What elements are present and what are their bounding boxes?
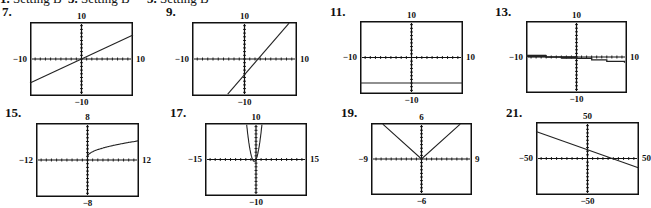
graph-plot	[360, 21, 463, 94]
graph-plot	[192, 22, 297, 96]
function-curve	[88, 141, 140, 157]
calculator-graph-19: 6−6−99	[371, 123, 472, 195]
window-label-right: 10	[630, 53, 639, 62]
window-label-left: −12	[19, 156, 33, 165]
problem-number: 9.	[166, 4, 176, 20]
problem-number: 5.	[147, 0, 157, 6]
window-label-top: 6	[419, 113, 424, 122]
graph-plot	[36, 123, 139, 197]
window-label-bottom: −10	[404, 96, 418, 105]
calculator-graph-17: 10−10−1515	[205, 123, 307, 196]
window-label-left: −10	[343, 53, 357, 62]
window-label-right: 10	[136, 55, 145, 64]
window-label-left: −50	[519, 154, 533, 163]
problem-number: 19.	[341, 105, 357, 121]
window-label-top: 50	[583, 112, 592, 121]
problem-number: 13.	[495, 4, 511, 20]
problem-number: 21.	[506, 105, 522, 121]
problem-number: 7.	[2, 4, 12, 20]
graph-plot	[30, 22, 133, 96]
window-label-bottom: −6	[417, 197, 427, 206]
calculator-graph-7: 10−10−1010	[30, 22, 133, 96]
problem-number: 17.	[170, 105, 186, 121]
problem-number: 15.	[5, 105, 21, 121]
window-label-right: 12	[142, 156, 151, 165]
window-label-bottom: −10	[249, 198, 263, 207]
window-label-top: 10	[407, 11, 416, 20]
window-label-bottom: −10	[237, 98, 251, 107]
window-label-right: 15	[310, 155, 319, 164]
window-label-right: 10	[466, 53, 475, 62]
calculator-graph-21: 50−50−5050	[536, 122, 639, 195]
window-label-bottom: −50	[580, 197, 594, 206]
setting-text: Setting B	[10, 0, 62, 6]
setting-text: Setting B	[78, 0, 130, 6]
calculator-graph-13: 10−10−1010	[526, 21, 627, 93]
window-label-bottom: −10	[569, 95, 583, 104]
calculator-graph-9: 10−10−1010	[192, 22, 297, 96]
window-label-top: 8	[85, 113, 90, 122]
window-label-right: 50	[642, 154, 651, 163]
window-label-left: −9	[358, 155, 368, 164]
window-label-left: −10	[509, 53, 523, 62]
window-label-top: 10	[240, 12, 249, 21]
window-label-top: 10	[252, 113, 261, 122]
function-curve	[247, 125, 262, 162]
window-label-bottom: −10	[74, 98, 88, 107]
answer-setting-5: 5. Setting B	[147, 0, 209, 7]
graph-plot	[536, 122, 639, 195]
window-label-top: 10	[77, 12, 86, 21]
window-label-right: 9	[475, 155, 480, 164]
setting-text: Setting B	[157, 0, 209, 6]
graph-plot	[526, 21, 627, 93]
problem-number: 3.	[68, 0, 78, 6]
graph-plot	[371, 123, 472, 195]
calculator-graph-15: 8−8−1212	[36, 123, 139, 197]
answer-setting-3: 3. Setting B	[68, 0, 130, 7]
problem-number: 11.	[330, 4, 346, 20]
calculator-graph-11: 10−10−1010	[360, 21, 463, 94]
graph-plot	[205, 123, 307, 196]
window-label-top: 10	[572, 11, 581, 20]
window-label-left: −15	[188, 155, 202, 164]
window-label-right: 10	[300, 55, 309, 64]
window-label-left: −10	[175, 55, 189, 64]
window-label-bottom: −8	[83, 199, 93, 208]
window-label-left: −10	[13, 55, 27, 64]
